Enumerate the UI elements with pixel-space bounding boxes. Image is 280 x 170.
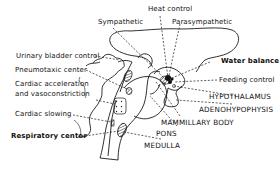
respiratory-nucleus [116,122,128,138]
label-cardiac-acceleration-line1: Cardiac acceleration [15,81,89,88]
label-mammillary-body: MAMMILLARY BODY [161,119,234,126]
label-heat-control: Heat control [148,6,192,13]
label-water-balance: Water balance [221,58,279,65]
label-feeding-control: Feeding control [219,77,275,84]
label-urinary-bladder-control: Urinary bladder control [16,53,99,60]
label-medulla: MEDULLA [144,142,180,149]
label-sympathetic: Sympathetic [98,19,143,26]
label-respiratory-center: Respiratory center [11,133,87,140]
label-adenohypophysis: ADENOHYPOPHYSIS [199,106,273,113]
label-parasympathetic: Parasympathetic [172,19,232,26]
label-cardiac-slowing: Cardiac slowing [15,111,72,118]
label-pons: PONS [156,130,177,137]
brain-autonomic-centers-diagram: Heat control Sympathetic Parasympathetic… [0,0,280,170]
cardiac-nucleus-upper [126,88,132,95]
cardiac-slowing-nucleus [111,120,114,126]
label-cardiac-acceleration-line2: and vasoconstriction [15,91,90,98]
cardiac-acceleration-dotted-area [114,98,126,114]
label-hypothalamus: HYPOTHALAMUS [209,93,271,100]
label-pneumotaxic-center: Pneumotaxic center [15,67,87,74]
